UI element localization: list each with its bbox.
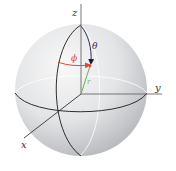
x-axis-label: x xyxy=(21,139,27,150)
spherical-coordinate-diagram: z y x θ ϕ r xyxy=(0,0,176,171)
y-axis-label: y xyxy=(154,82,161,93)
point-marker xyxy=(89,65,92,68)
theta-label: θ xyxy=(92,41,98,51)
z-axis-label: z xyxy=(71,7,78,18)
diagram-canvas: z y x θ ϕ r xyxy=(0,0,176,171)
phi-label: ϕ xyxy=(71,53,77,63)
